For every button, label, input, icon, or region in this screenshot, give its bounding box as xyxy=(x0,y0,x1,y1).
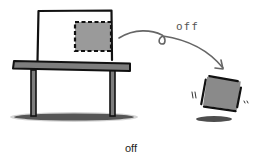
caption: off xyxy=(0,142,262,154)
arc-arrow xyxy=(119,31,223,69)
falling-square-shadow xyxy=(196,116,232,122)
table-top xyxy=(13,61,130,71)
table-legs xyxy=(31,70,115,116)
falling-square xyxy=(201,76,242,112)
illustration xyxy=(0,0,262,163)
arc-label: off xyxy=(176,20,199,33)
dashed-square xyxy=(75,22,111,51)
table-ground-shadow xyxy=(10,112,138,122)
